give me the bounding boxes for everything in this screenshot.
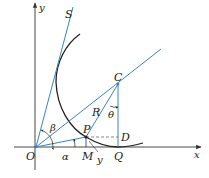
angle-alpha-arc [74,139,75,147]
y-axis-label: y [38,2,45,13]
angle-theta-arc [110,106,118,107]
label-r: R [91,106,100,119]
label-theta: θ [108,109,114,120]
label-o: O [26,150,35,163]
label-m: M [81,150,94,163]
label-y-point: y [96,154,103,165]
label-beta: β [49,122,56,133]
label-p: P [82,123,91,136]
geometry-diagram: y x S C R P D O M Q y β α θ [0,0,209,178]
point-o [35,146,38,149]
label-q: Q [114,150,123,163]
line-op [36,137,86,147]
label-s: S [65,8,73,21]
label-alpha: α [62,151,69,162]
label-c: C [114,71,123,84]
curve-arc [56,34,143,147]
x-axis-label: x [194,149,200,160]
label-d: D [120,131,130,144]
